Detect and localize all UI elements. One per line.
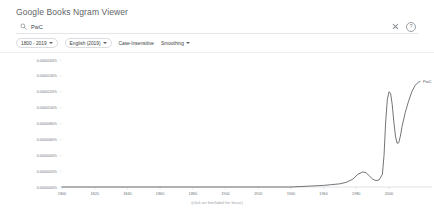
- y-axis-tick-label: 0.0000120%: [37, 90, 58, 94]
- x-axis-tick-label: 1960: [319, 192, 327, 196]
- filter-bar: 1800 - 2019 English (2019) Case-Insensit…: [16, 38, 190, 48]
- case-insensitive-label: Case-Insensitive: [119, 41, 154, 46]
- x-axis-tick-label: 1820: [90, 192, 98, 196]
- corpus-chip[interactable]: English (2019): [65, 38, 112, 48]
- y-axis-tick-label: 0.0000080%: [37, 122, 58, 126]
- y-axis-tick-label: 0.0000160%: [37, 59, 58, 63]
- search-bar[interactable]: PwC ?: [16, 20, 418, 34]
- y-axis-tick-label: 0.0000140%: [37, 74, 58, 78]
- smoothing-label: Smoothing: [161, 41, 184, 46]
- chevron-down-icon: [186, 42, 190, 44]
- smoothing-menu[interactable]: Smoothing: [161, 41, 190, 46]
- case-insensitive-toggle[interactable]: Case-Insensitive: [119, 41, 154, 46]
- x-axis-tick-label: 1900: [221, 192, 229, 196]
- search-icon: [16, 23, 30, 30]
- ngram-viewer-app: Google Books Ngram Viewer PwC ? 1800 - 2…: [0, 0, 434, 218]
- series-line[interactable]: [62, 81, 420, 187]
- search-actions: ?: [392, 22, 418, 32]
- chevron-down-icon: [103, 42, 107, 44]
- x-axis-tick-label: 1920: [254, 192, 262, 196]
- corpus-label: English (2019): [70, 41, 101, 46]
- x-axis-tick-label: 1980: [352, 192, 360, 196]
- help-icon[interactable]: ?: [406, 22, 416, 32]
- chevron-down-icon: [49, 42, 53, 44]
- search-input[interactable]: PwC: [30, 24, 392, 30]
- chart-footer-note: (click on line/label for focus): [0, 200, 434, 205]
- chart-canvas[interactable]: 0.0000000%0.0000020%0.0000040%0.0000060%…: [0, 54, 434, 206]
- x-axis-tick-label: 1860: [156, 192, 164, 196]
- ngram-chart[interactable]: 0.0000000%0.0000020%0.0000040%0.0000060%…: [0, 54, 434, 206]
- y-axis-tick-label: 0.0000000%: [37, 186, 58, 190]
- y-axis-tick-label: 0.0000060%: [37, 138, 58, 142]
- year-range-label: 1800 - 2019: [21, 41, 47, 46]
- x-axis-tick-label: 1880: [189, 192, 197, 196]
- page-title: Google Books Ngram Viewer: [16, 7, 128, 17]
- y-axis-tick-label: 0.0000040%: [37, 154, 58, 158]
- x-axis-tick-label: 2000: [385, 192, 393, 196]
- x-axis-tick-label: 1800: [58, 192, 66, 196]
- year-range-chip[interactable]: 1800 - 2019: [16, 38, 58, 48]
- y-axis-tick-label: 0.0000100%: [37, 106, 58, 110]
- series-end-label[interactable]: PwC: [423, 79, 432, 84]
- x-axis-tick-label: 1840: [123, 192, 131, 196]
- close-icon[interactable]: [392, 23, 399, 30]
- y-axis-tick-label: 0.0000020%: [37, 170, 58, 174]
- header-divider: [0, 52, 434, 53]
- x-axis-tick-label: 1940: [287, 192, 295, 196]
